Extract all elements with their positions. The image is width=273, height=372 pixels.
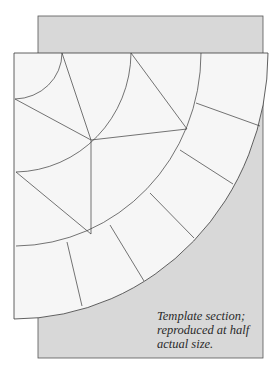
caption-line-3: actual size.: [157, 337, 267, 351]
caption-line-1: Template section;: [157, 309, 267, 323]
caption-line-2: reproduced at half: [157, 323, 267, 337]
figure-caption: Template section; reproduced at half act…: [157, 309, 267, 351]
